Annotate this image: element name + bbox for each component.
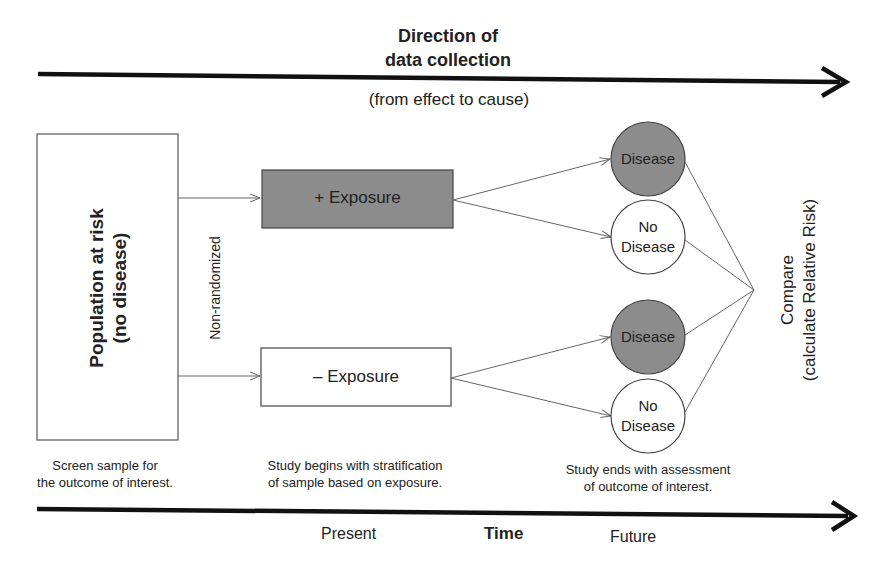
arrow-neg-to-no-disease: [451, 378, 611, 416]
timeline-present: Present: [321, 524, 376, 543]
caption-line: of outcome of interest.: [538, 478, 758, 495]
caption-screen-sample: Screen sample for the outcome of interes…: [20, 457, 190, 491]
arrow-pos-to-no-disease: [453, 200, 611, 237]
arrow-pos-to-disease: [453, 159, 610, 200]
direction-subtitle: (from effect to cause): [0, 90, 888, 110]
timeline-future: Future: [610, 527, 656, 546]
caption-line: Screen sample for: [20, 457, 190, 474]
outcome-label-line: Disease: [611, 416, 685, 436]
outcome-label-line: Disease: [611, 149, 685, 169]
negative-exposure-label: – Exposure: [261, 367, 451, 387]
caption-study-ends: Study ends with assessment of outcome of…: [538, 461, 758, 495]
caption-line: Study begins with stratification: [240, 457, 470, 474]
timeline-time: Time: [484, 524, 523, 544]
compare-label-line-1: Compare: [777, 170, 799, 410]
diagram-title: Direction of data collection: [298, 24, 598, 72]
outcome-label-pos-disease: Disease: [611, 149, 685, 169]
outcome-label-line: No: [611, 396, 685, 416]
outcome-label-neg-disease: Disease: [611, 327, 685, 347]
positive-exposure-label: + Exposure: [262, 188, 453, 208]
title-line-2: data collection: [298, 48, 598, 72]
caption-line: the outcome of interest.: [20, 474, 190, 491]
time-arrow: [37, 502, 854, 530]
caption-line: of sample based on exposure.: [240, 474, 470, 491]
population-label-line-1: Population at risk: [85, 135, 108, 441]
outcome-label-pos-no-disease: No Disease: [611, 217, 685, 257]
non-randomized-label: Non-randomized: [205, 228, 225, 348]
outcome-label-line: Disease: [611, 327, 685, 347]
caption-study-begins: Study begins with stratification of samp…: [240, 457, 470, 491]
population-label: Population at risk (no disease): [85, 135, 131, 441]
outcome-label-neg-no-disease: No Disease: [611, 396, 685, 436]
outcome-label-line: No: [611, 217, 685, 237]
compare-label: Compare (calculate Relative Risk): [777, 170, 823, 410]
compare-lines: [685, 162, 754, 412]
outcome-label-line: Disease: [611, 237, 685, 257]
population-label-line-2: (no disease): [108, 135, 131, 441]
title-line-1: Direction of: [298, 24, 598, 48]
arrow-neg-to-disease: [451, 337, 610, 378]
caption-line: Study ends with assessment: [538, 461, 758, 478]
compare-label-line-2: (calculate Relative Risk): [799, 170, 821, 410]
